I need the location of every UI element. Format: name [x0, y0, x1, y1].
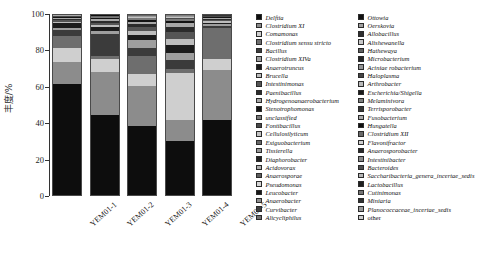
legend-item[interactable]: Anaerobacter [256, 197, 339, 205]
bar-segment[interactable] [91, 72, 119, 115]
legend-item[interactable]: Fusobacterium [358, 113, 474, 121]
legend-item[interactable]: Arthrobacter [358, 80, 474, 88]
bar-segment[interactable] [203, 120, 231, 195]
bar-column[interactable] [202, 14, 232, 196]
bar-column[interactable] [127, 14, 157, 196]
bar-segment[interactable] [166, 45, 194, 53]
legend-item[interactable]: Acidovorax [256, 163, 339, 171]
legend-item[interactable]: Anaerosporobacter [358, 147, 474, 155]
legend-item[interactable]: Miniaria [358, 197, 474, 205]
legend-item[interactable]: Clostridium XIVa [256, 55, 339, 63]
bar-segment[interactable] [166, 73, 194, 120]
legend-item[interactable]: Hungatella [358, 121, 474, 129]
legend-item[interactable]: Alicycliphilus [256, 213, 339, 221]
bar-segment[interactable] [128, 86, 156, 126]
legend-item[interactable]: Intestinibacter [358, 155, 474, 163]
bar-segment[interactable] [203, 70, 231, 120]
legend-swatch-icon [256, 173, 262, 179]
legend-swatch-icon [358, 165, 364, 171]
bar-segment[interactable] [91, 34, 119, 56]
bar-segment[interactable] [128, 74, 156, 87]
legend-label: other [368, 214, 381, 221]
legend-column-right: OttowiaOerskoviaAllobacillusAlishewanell… [358, 13, 474, 222]
legend-item[interactable]: Lactobacillus [358, 180, 474, 188]
legend-item[interactable]: Paenibacillus [256, 88, 339, 96]
legend-item[interactable]: Escherichia/Shigella [358, 88, 474, 96]
legend-item[interactable]: Hydrogenoanaerobacterium [256, 96, 339, 104]
legend-item[interactable]: Anaerosporae [256, 172, 339, 180]
bar-column[interactable] [165, 14, 195, 196]
bar-segment[interactable] [128, 126, 156, 195]
legend-item[interactable]: Pseudomonas [256, 180, 339, 188]
legend-item[interactable]: Cellulosilyticum [256, 130, 339, 138]
legend-item[interactable]: other [358, 213, 474, 221]
bar-segment[interactable] [53, 36, 81, 49]
bar-column[interactable] [52, 14, 82, 196]
legend-item[interactable]: Microbacterium [358, 55, 474, 63]
legend-label: Aciniae robacterium [368, 64, 421, 71]
bar-segment[interactable] [128, 40, 156, 48]
legend-item[interactable]: Allobacillus [358, 30, 474, 38]
bar-column[interactable] [90, 14, 120, 196]
legend-label: Acidovorax [266, 164, 296, 171]
legend-item[interactable]: Anaerotruncus [256, 63, 339, 71]
bar-segment[interactable] [128, 56, 156, 74]
legend-item[interactable]: Flavonifractor [358, 138, 474, 146]
bar-segment[interactable] [53, 48, 81, 61]
legend-item[interactable]: Curvibacter [256, 205, 339, 213]
legend-item[interactable]: Cutinimonas [358, 188, 474, 196]
legend-item[interactable]: Clostridium sensu stricto [256, 38, 339, 46]
legend-item[interactable]: Comamonas [256, 30, 339, 38]
stacked-bar[interactable] [127, 14, 157, 196]
bar-segment[interactable] [53, 62, 81, 84]
legend-item[interactable]: Leucobacter [256, 188, 339, 196]
legend-item[interactable]: Saccharibacteria_genera_incertae_sedis [358, 172, 474, 180]
legend-swatch-icon [256, 215, 262, 221]
stacked-bar[interactable] [165, 14, 195, 196]
bar-segment[interactable] [166, 53, 194, 60]
legend-item[interactable]: Planococcaceae_incertae_sedis [358, 205, 474, 213]
legend-item[interactable]: Bacteroides [358, 163, 474, 171]
legend-item[interactable]: Tissierella [256, 147, 339, 155]
legend-item[interactable]: unclassified [256, 113, 339, 121]
y-tick-label: 60 [36, 82, 45, 92]
legend-item[interactable]: Haloplasma [358, 71, 474, 79]
legend-item[interactable]: Intestinimonas [256, 80, 339, 88]
bar-segment[interactable] [128, 48, 156, 55]
legend-item[interactable]: Clostridium XII [358, 130, 474, 138]
legend-item[interactable]: Diaphorobacter [256, 155, 339, 163]
bar-segment[interactable] [166, 32, 194, 39]
legend-swatch-icon [358, 14, 364, 20]
legend-item[interactable]: Stenotrophomonas [256, 105, 339, 113]
legend-swatch-icon [256, 181, 262, 187]
legend-swatch-icon [358, 123, 364, 129]
legend-swatch-icon [358, 106, 364, 112]
bar-segment[interactable] [166, 141, 194, 195]
legend-swatch-icon [256, 206, 262, 212]
legend-item[interactable]: Brucella [256, 71, 339, 79]
legend-item[interactable]: Exiguobacterium [256, 138, 339, 146]
legend-item[interactable]: Aciniae robacterium [358, 63, 474, 71]
stacked-bar[interactable] [90, 14, 120, 196]
legend-item[interactable]: Alishewanella [358, 38, 474, 46]
legend-item[interactable]: Melaminivora [358, 96, 474, 104]
bar-segment[interactable] [203, 28, 231, 58]
bar-segment[interactable] [53, 84, 81, 195]
legend-item[interactable]: Bacillus [256, 46, 339, 54]
bar-segment[interactable] [91, 115, 119, 195]
bar-segment[interactable] [203, 59, 231, 70]
legend-item[interactable]: Oerskovia [358, 21, 474, 29]
legend-item[interactable]: Terrisporobacter [358, 105, 474, 113]
legend-label: Fontibacillus [266, 122, 301, 129]
bar-segment[interactable] [166, 120, 194, 141]
legend-item[interactable]: Hathewaya [358, 46, 474, 54]
bar-segment[interactable] [91, 59, 119, 72]
stacked-bar[interactable] [202, 14, 232, 196]
legend-item[interactable]: Delftia [256, 13, 339, 21]
legend-item[interactable]: Ottowia [358, 13, 474, 21]
legend-item[interactable]: Clostridium XI [256, 21, 339, 29]
legend-item[interactable]: Fontibacillus [256, 121, 339, 129]
stacked-bar[interactable] [52, 14, 82, 196]
legend-swatch-icon [256, 123, 262, 129]
bar-segment[interactable] [166, 60, 194, 69]
